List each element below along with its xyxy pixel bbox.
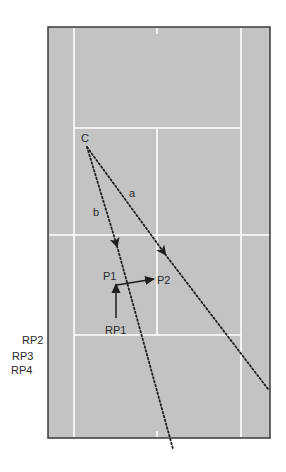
shot-b-label: b [93,206,99,218]
rotation-3-label: RP3 [12,350,33,362]
rotation-4-label: RP4 [11,364,32,376]
court-surface [48,27,270,438]
shot-a-label: a [129,187,136,199]
rotation-2-label: RP2 [22,334,43,346]
player-1-label: P1 [103,270,116,282]
player-2-label: P2 [157,274,170,286]
tennis-court-diagram: C a b P1 P2 RP1 RP2 RP3 RP4 [0,0,286,472]
coach-label: C [81,132,89,144]
rotation-1-label: RP1 [105,324,126,336]
